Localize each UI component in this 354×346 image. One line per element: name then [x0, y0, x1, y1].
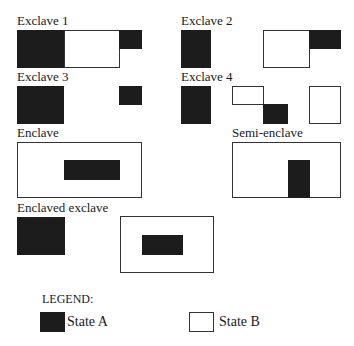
- legend-swatch-state-a: [40, 312, 65, 332]
- state-a-territory: [17, 30, 64, 68]
- panel-label: Exclave 1: [17, 14, 69, 28]
- state-b-territory: [232, 142, 341, 198]
- state-a-exclave: [263, 104, 288, 124]
- state-a-exclave: [119, 86, 142, 105]
- panel-label: Enclaved exclave: [17, 201, 108, 215]
- state-a-territory: [17, 217, 65, 255]
- state-a-exclave: [119, 30, 142, 49]
- legend-swatch-state-b: [189, 312, 214, 332]
- state-b-territory: [309, 86, 341, 124]
- panel-label: Exclave 3: [17, 70, 69, 84]
- state-a-territory: [181, 86, 211, 124]
- state-a-exclave: [309, 30, 341, 49]
- legend-title: LEGEND:: [42, 292, 93, 306]
- state-b-territory: [263, 30, 310, 68]
- panel-label: Exclave 4: [181, 70, 233, 84]
- state-a-enclaved-exclave: [142, 235, 183, 255]
- state-a-semi-enclave: [288, 160, 310, 198]
- panel-label: Enclave: [17, 126, 59, 140]
- state-a-territory: [17, 86, 64, 124]
- panel-label: Semi-enclave: [232, 126, 303, 140]
- state-b-territory: [232, 86, 264, 105]
- legend-label-state-a: State A: [67, 314, 108, 330]
- state-b-territory: [64, 30, 120, 68]
- legend-label-state-b: State B: [219, 314, 260, 330]
- panel-label: Exclave 2: [181, 14, 233, 28]
- state-a-territory: [181, 30, 211, 68]
- state-a-enclave: [64, 160, 120, 180]
